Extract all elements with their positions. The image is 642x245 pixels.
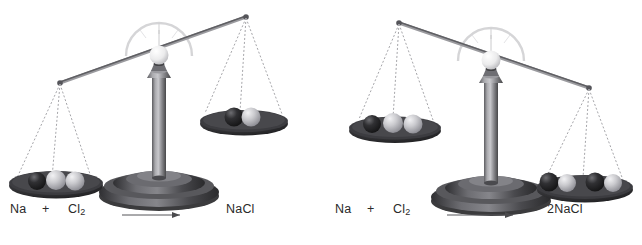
- sphere-cl: [383, 113, 403, 133]
- panel-balanced-scale: Na + Cl2 2NaCl: [321, 0, 642, 245]
- left-pan-assembly: [9, 84, 103, 199]
- balance-scales-figure: Na + Cl2 NaCl: [0, 0, 642, 245]
- sphere-na: [28, 172, 46, 190]
- sphere-cl: [404, 115, 423, 134]
- left-pan-assembly: [349, 24, 441, 143]
- right-pan-assembly: [200, 18, 288, 136]
- right-pan-chains: [545, 89, 623, 180]
- arrow-right-icon: [122, 212, 180, 218]
- sphere-na: [225, 108, 244, 127]
- pointer-ball: [150, 46, 169, 65]
- left-pan-chains: [16, 84, 92, 180]
- sphere-na: [363, 115, 381, 133]
- sphere-cl: [604, 174, 622, 192]
- left-pan-spheres: [28, 170, 85, 191]
- pointer-ball: [482, 51, 501, 70]
- left-pan-spheres: [363, 113, 423, 134]
- right-pan-chains: [205, 18, 282, 114]
- panel-unbalanced-scale: Na + Cl2 NaCl: [0, 0, 321, 245]
- right-pan-assembly: [537, 89, 633, 203]
- sphere-cl: [46, 170, 66, 190]
- sphere-na: [586, 173, 605, 192]
- sphere-na: [540, 173, 559, 192]
- left-balance-illustration: [0, 0, 321, 245]
- sphere-cl: [66, 172, 85, 191]
- scale-column: [479, 62, 503, 185]
- sphere-cl: [558, 174, 576, 192]
- sphere-cl: [242, 108, 261, 127]
- scale-column: [147, 57, 171, 180]
- right-balance-illustration: [321, 0, 642, 245]
- left-pan-chains: [359, 24, 433, 120]
